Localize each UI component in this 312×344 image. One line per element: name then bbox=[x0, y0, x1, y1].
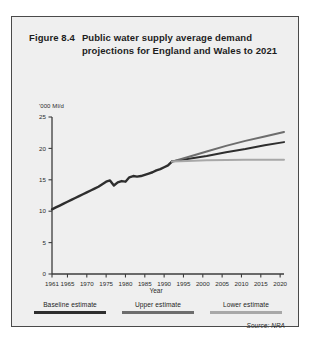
svg-text:1995: 1995 bbox=[177, 280, 191, 287]
svg-text:1965: 1965 bbox=[61, 280, 75, 287]
svg-text:25: 25 bbox=[39, 113, 46, 120]
svg-text:15: 15 bbox=[39, 176, 46, 183]
legend-swatch-baseline bbox=[34, 311, 106, 314]
svg-text:2015: 2015 bbox=[254, 280, 268, 287]
svg-text:2010: 2010 bbox=[235, 280, 249, 287]
svg-text:5: 5 bbox=[43, 239, 47, 246]
legend-item-lower: Lower estimate bbox=[208, 301, 284, 314]
chart-legend: Baseline estimate Upper estimate Lower e… bbox=[32, 301, 284, 314]
legend-label-lower: Lower estimate bbox=[208, 301, 284, 308]
legend-label-upper: Upper estimate bbox=[120, 301, 196, 308]
svg-text:1961: 1961 bbox=[45, 280, 59, 287]
legend-swatch-lower bbox=[210, 311, 282, 314]
x-axis-title: Year bbox=[12, 287, 300, 294]
source-note: Source: NRA bbox=[247, 322, 285, 329]
svg-text:1980: 1980 bbox=[119, 280, 133, 287]
legend-item-upper: Upper estimate bbox=[120, 301, 196, 314]
chart-plot: 0510152025196119651970197519801985199019… bbox=[12, 17, 300, 287]
figure-panel: Figure 8.4 Public water supply average d… bbox=[11, 16, 299, 327]
svg-text:2005: 2005 bbox=[215, 280, 229, 287]
svg-text:1985: 1985 bbox=[138, 280, 152, 287]
legend-item-baseline: Baseline estimate bbox=[32, 301, 108, 314]
svg-text:2020: 2020 bbox=[273, 280, 287, 287]
svg-text:2000: 2000 bbox=[196, 280, 210, 287]
svg-text:1990: 1990 bbox=[157, 280, 171, 287]
svg-text:1975: 1975 bbox=[99, 280, 113, 287]
svg-text:20: 20 bbox=[39, 145, 46, 152]
svg-text:1970: 1970 bbox=[80, 280, 94, 287]
legend-label-baseline: Baseline estimate bbox=[32, 301, 108, 308]
svg-text:0: 0 bbox=[43, 270, 47, 277]
legend-swatch-upper bbox=[122, 311, 194, 314]
svg-text:10: 10 bbox=[39, 207, 46, 214]
